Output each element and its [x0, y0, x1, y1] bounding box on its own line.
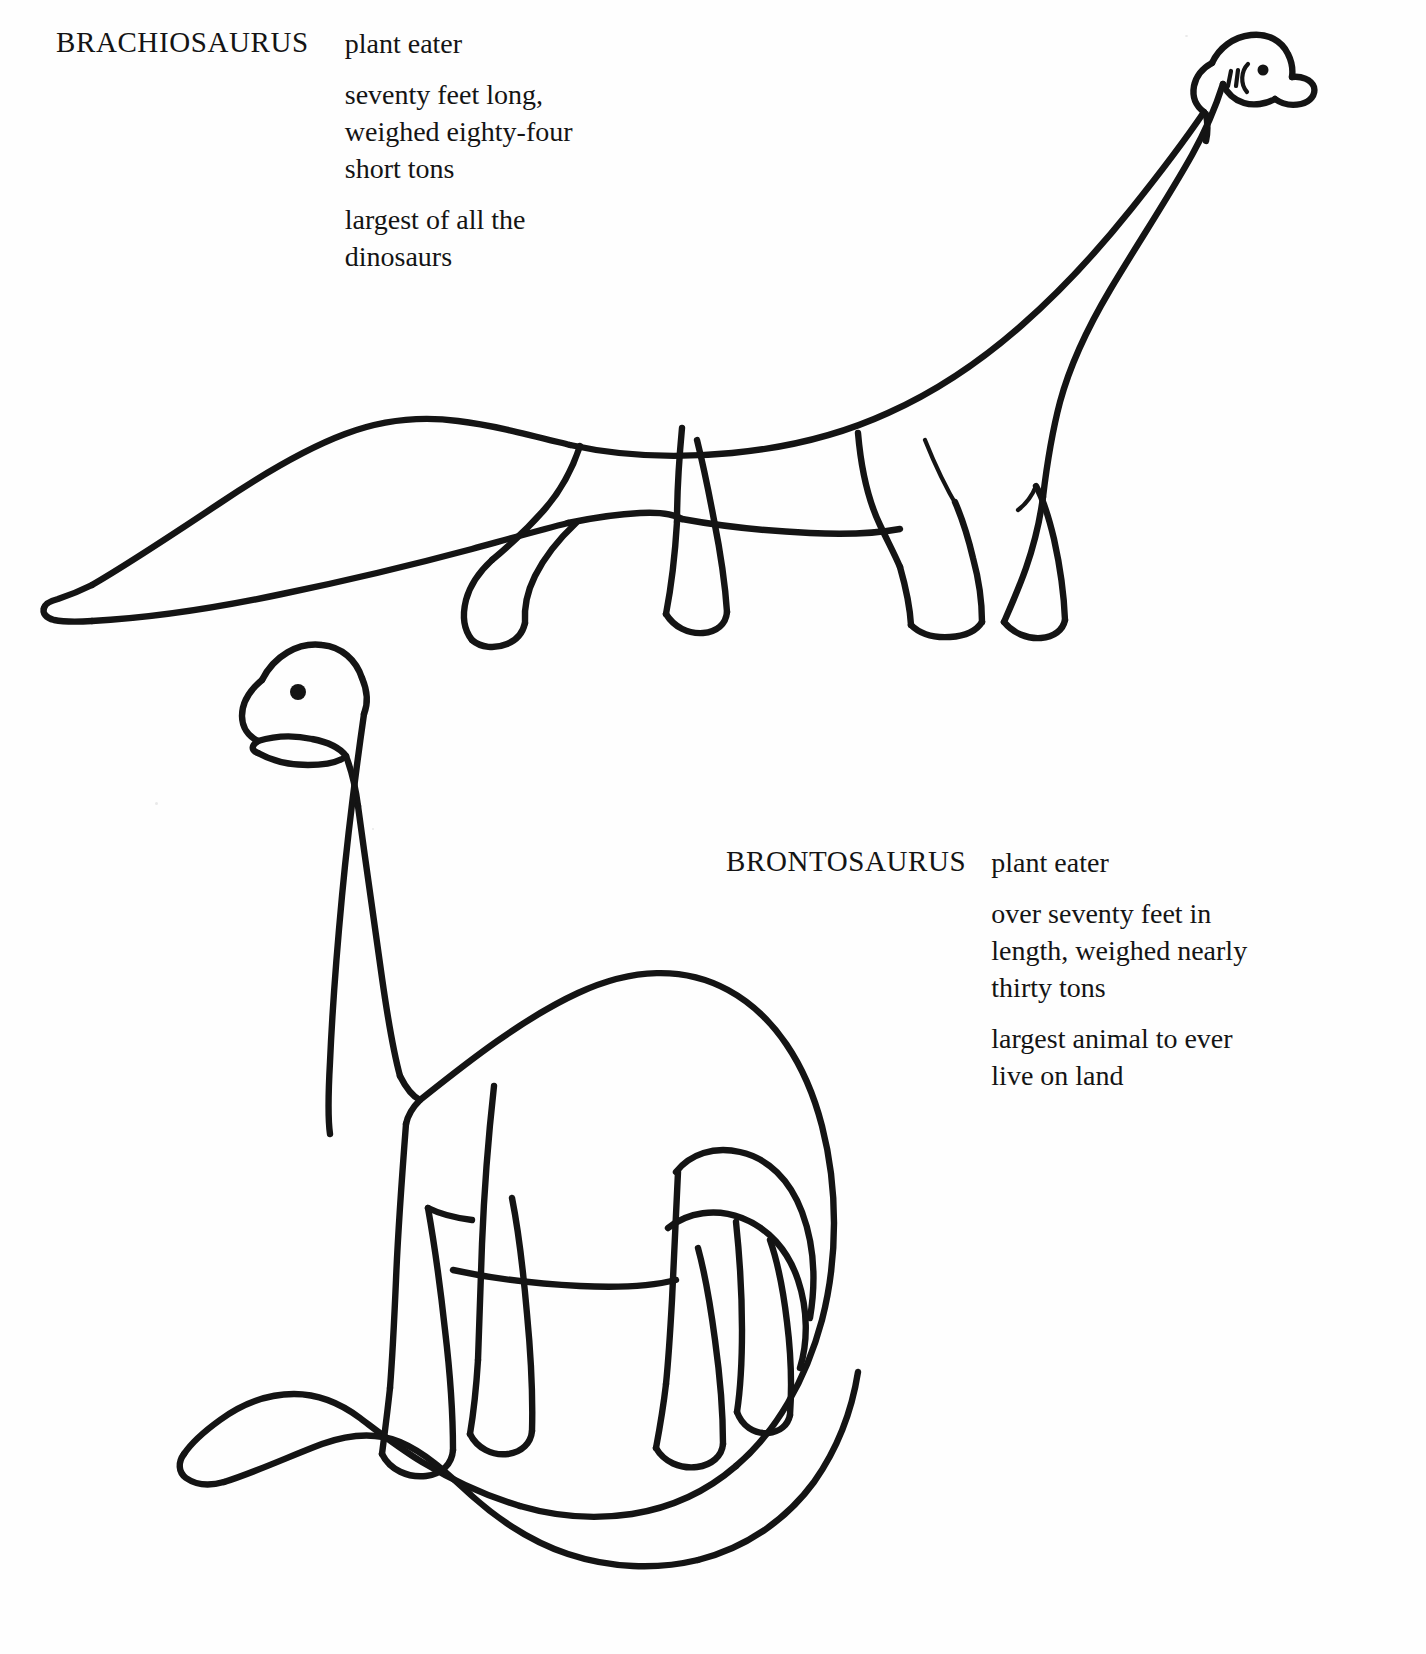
- brontosaurus-near-front-leg-back: [428, 1208, 453, 1450]
- brontosaurus-rump: [520, 1466, 736, 1517]
- fact-diet: plant eater: [991, 845, 1301, 882]
- brachiosaurus-body-fold-right: [1018, 486, 1036, 510]
- brachiosaurus-neck-front: [1043, 84, 1223, 497]
- scan-speck: [1185, 35, 1188, 37]
- brontosaurus-belly-line: [453, 1270, 676, 1287]
- brachiosaurus-far-hind-leg-front: [464, 560, 492, 640]
- brachiosaurus-tail-top: [44, 585, 92, 608]
- brontosaurus-tail-tip: [180, 1454, 224, 1484]
- fact-size: over seventy feet in length, weighed nea…: [991, 896, 1301, 1007]
- brontosaurus-far-front-leg-front: [478, 1086, 494, 1360]
- scan-speck: [372, 828, 374, 830]
- brachiosaurus-eye-dot: [1258, 65, 1269, 76]
- brachiosaurus-far-hind-foot: [472, 623, 525, 647]
- brachiosaurus-far-front-leg-back: [900, 567, 911, 625]
- brontosaurus-near-front-leg-shaft: [382, 1388, 390, 1454]
- brontosaurus-shoulder-notch: [400, 1076, 420, 1124]
- brontosaurus-head-back: [362, 678, 367, 714]
- fact-size: seventy feet long, weighed eighty-four s…: [345, 77, 645, 188]
- brontosaurus-upper-jaw: [258, 737, 346, 756]
- brachiosaurus-nostril-mark-2: [1236, 70, 1238, 86]
- brontosaurus-far-hind-foot: [737, 1412, 790, 1433]
- brachiosaurus-near-front-foot: [1004, 620, 1065, 638]
- fact-note: largest animal to ever live on land: [991, 1021, 1301, 1095]
- brachiosaurus-near-hind-leg-back: [697, 440, 727, 612]
- brontosaurus-eye-dot: [290, 684, 306, 700]
- brontosaurus-tail-far-end: [698, 1372, 858, 1560]
- brachiosaurus-far-front-leg-front: [858, 433, 900, 567]
- brachiosaurus-jaw: [1223, 84, 1275, 104]
- brontosaurus-chest-line: [428, 1208, 472, 1220]
- fact-diet: plant eater: [345, 26, 645, 63]
- coloring-page: BRACHIOSAURUS plant eater seventy feet l…: [0, 0, 1426, 1654]
- brachiosaurus-far-front-leg-rear-edge: [955, 502, 982, 622]
- brontosaurus-far-hind-leg-back: [770, 1240, 791, 1415]
- brachiosaurus-throat-spur: [1206, 114, 1208, 141]
- brachiosaurus-near-hind-foot: [666, 612, 727, 633]
- brontosaurus-neck-back: [358, 806, 400, 1076]
- brontosaurus-near-front-leg-front: [390, 1124, 406, 1388]
- brachiosaurus-head-left: [1193, 63, 1212, 112]
- dinosaur-name-brontosaurus: BRONTOSAURUS: [726, 845, 966, 876]
- brachiosaurus-tail-bottom: [92, 523, 568, 621]
- entry-brachiosaurus: BRACHIOSAURUS plant eater seventy feet l…: [56, 26, 645, 276]
- brachiosaurus-neck-back: [570, 112, 1204, 456]
- brachiosaurus-snout: [1275, 77, 1314, 105]
- fact-list-brachiosaurus: plant eater seventy feet long, weighed e…: [345, 26, 645, 276]
- brontosaurus-tail-bottom: [224, 1435, 698, 1566]
- brontosaurus-far-front-leg-shaft: [470, 1360, 478, 1434]
- brontosaurus-brow: [242, 680, 262, 741]
- brontosaurus-hip-arc-inner: [668, 1213, 806, 1368]
- brachiosaurus-hip-underside: [568, 513, 682, 523]
- scan-speck: [155, 802, 158, 805]
- entry-brontosaurus: BRONTOSAURUS plant eater over seventy fe…: [726, 845, 1301, 1095]
- brachiosaurus-far-front-foot: [911, 622, 982, 637]
- brontosaurus-near-front-foot: [382, 1450, 453, 1476]
- brachiosaurus-shoulder-fold-1: [925, 440, 958, 508]
- dinosaur-name-brachiosaurus: BRACHIOSAURUS: [56, 26, 309, 57]
- brachiosaurus-tail-tip: [43, 608, 92, 622]
- brachiosaurus-near-hind-leg-shaft: [666, 522, 677, 614]
- brachiosaurus-near-front-leg-back: [1036, 486, 1065, 620]
- brachiosaurus-near-hind-leg-front: [677, 428, 682, 522]
- brontosaurus-far-hind-leg-front: [736, 1222, 742, 1412]
- brachiosaurus-far-hind-leg-top: [492, 446, 580, 560]
- brachiosaurus-head-outline: [1212, 35, 1292, 77]
- brachiosaurus-cheek-curve: [1242, 64, 1248, 92]
- brachiosaurus-back-line: [92, 419, 570, 585]
- brontosaurus-chin: [253, 741, 258, 753]
- brontosaurus-near-hind-foot: [656, 1444, 723, 1467]
- brontosaurus-near-hind-leg-shaft: [656, 1384, 666, 1448]
- brachiosaurus-near-front-leg-front: [1004, 497, 1043, 622]
- brontosaurus-throat: [346, 756, 358, 806]
- scan-speck: [897, 866, 899, 868]
- brontosaurus-neck-front: [329, 714, 365, 1134]
- brachiosaurus-far-hind-leg-back: [525, 523, 576, 623]
- brontosaurus-drawing: [170, 620, 1000, 1640]
- brontosaurus-near-hind-leg-back: [698, 1248, 723, 1444]
- fact-note: largest of all the dinosaurs: [345, 202, 645, 276]
- brachiosaurus-nostril-mark-1: [1228, 71, 1231, 86]
- brontosaurus-far-front-foot: [470, 1431, 532, 1454]
- brachiosaurus-belly-line: [682, 519, 900, 534]
- brontosaurus-far-front-leg-back: [512, 1198, 532, 1431]
- brontosaurus-head-top: [262, 645, 362, 680]
- brontosaurus-tail-top: [184, 1394, 520, 1506]
- brontosaurus-near-hind-leg-front: [666, 1172, 678, 1384]
- brontosaurus-lower-jaw: [258, 753, 342, 765]
- fact-list-brontosaurus: plant eater over seventy feet in length,…: [991, 845, 1301, 1095]
- brontosaurus-hip-arc: [676, 1150, 813, 1318]
